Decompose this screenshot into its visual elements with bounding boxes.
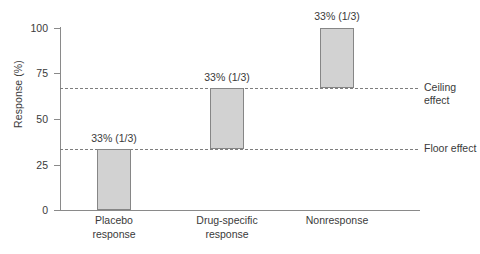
x-category-label-drug-specific-response-line2: response [167, 228, 287, 242]
x-category-label-drug-specific-response: Drug-specific response [167, 214, 287, 241]
y-axis-line [60, 27, 61, 211]
x-category-label-placebo-response-line1: Placebo [54, 214, 174, 228]
x-category-label-drug-specific-response-line1: Drug-specific [167, 214, 287, 228]
bar-drug-specific-response[interactable] [210, 88, 244, 149]
bar-value-placebo-response: 33% (1/3) [59, 133, 169, 144]
ceiling-effect-label: Ceiling effect [424, 81, 480, 106]
y-tick-mark-25 [54, 165, 60, 166]
ceiling-effect-label-line1: Ceiling [424, 81, 456, 93]
y-tick-label-100: 100 [8, 23, 48, 34]
x-category-label-placebo-response: Placebo response [54, 214, 174, 241]
x-category-label-placebo-response-line2: response [54, 228, 174, 242]
floor-effect-label-line1: Floor [424, 142, 448, 154]
y-tick-mark-100 [54, 28, 60, 29]
x-category-label-nonresponse: Nonresponse [277, 214, 397, 228]
y-axis-title: Response (%) [12, 44, 24, 144]
bar-placebo-response[interactable] [97, 149, 131, 210]
bar-chart-figure: Response (%) 100 75 50 25 0 Ceiling effe… [0, 0, 480, 254]
x-category-label-nonresponse-line1: Nonresponse [277, 214, 397, 228]
bar-value-nonresponse: 33% (1/3) [282, 11, 392, 22]
floor-effect-label: Floor effect [424, 142, 480, 155]
y-tick-mark-75 [54, 73, 60, 74]
y-tick-label-25: 25 [8, 160, 48, 171]
bar-value-drug-specific-response: 33% (1/3) [172, 72, 282, 83]
ceiling-effect-label-line2: effect [424, 94, 450, 106]
y-tick-mark-50 [54, 119, 60, 120]
y-tick-mark-0 [54, 210, 60, 211]
y-tick-label-50: 50 [8, 114, 48, 125]
y-tick-label-75: 75 [8, 68, 48, 79]
bar-nonresponse[interactable] [320, 28, 354, 88]
floor-effect-label-line2: effect [451, 142, 477, 154]
x-axis-line [60, 210, 420, 211]
y-tick-label-0: 0 [8, 205, 48, 216]
